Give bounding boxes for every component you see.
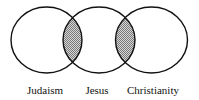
venn-diagram: Judaism Jesus Christianity: [0, 0, 199, 100]
label-christianity: Christianity: [127, 84, 179, 96]
label-judaism: Judaism: [27, 84, 64, 96]
label-jesus: Jesus: [85, 84, 108, 96]
